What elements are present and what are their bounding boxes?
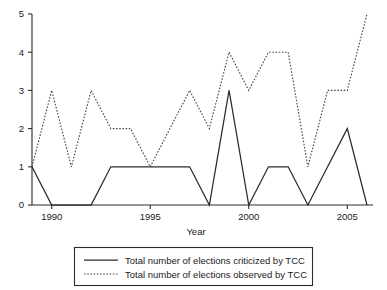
x-axis-title: Year [186,226,205,237]
x-tick-label: 2000 [238,211,259,222]
line-chart: 012345 1990199520002005 Year Total numbe… [0,0,387,290]
legend-label-criticized: Total number of elections criticized by … [125,255,305,266]
y-tick-label: 2 [19,123,24,134]
y-tick-label: 5 [19,8,24,19]
x-axis: 1990199520002005 [32,205,373,222]
legend-border [75,248,313,286]
series-line-observed [32,14,367,167]
series-lines [32,14,367,205]
x-tick-label: 2005 [337,211,358,222]
chart-container: 012345 1990199520002005 Year Total numbe… [0,0,387,290]
x-tick-label: 1990 [41,211,62,222]
y-tick-label: 4 [19,47,24,58]
y-tick-label: 1 [19,161,24,172]
legend-label-observed: Total number of elections observed by TC… [125,269,307,280]
series-line-criticized [32,90,367,205]
y-axis: 012345 [19,8,32,210]
x-tick-label: 1995 [140,211,161,222]
y-tick-label: 3 [19,85,24,96]
chart-legend: Total number of elections criticized by … [75,248,313,286]
y-tick-label: 0 [19,199,24,210]
